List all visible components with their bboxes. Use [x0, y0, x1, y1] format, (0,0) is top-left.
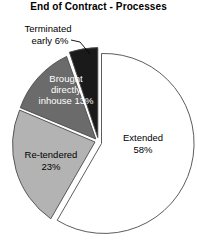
- slice-value-extended: 58%: [133, 144, 153, 155]
- slice-label-extended: Extended: [123, 132, 163, 143]
- slice-label-inhouse-line3: inhouse 13%: [39, 95, 94, 106]
- callout-label-terminated-line2: early 6%: [32, 35, 70, 46]
- slice-value-re-tendered: 23%: [41, 161, 61, 172]
- slice-label-re-tendered: Re-tendered: [25, 149, 78, 160]
- pie-chart-svg: Extended 58% Re-tendered 23% Brought dir…: [0, 0, 197, 246]
- pie-chart-figure: End of Contract - Processes Extended 58%…: [0, 0, 197, 246]
- slice-label-inhouse-line1: Brought: [49, 73, 83, 84]
- callout-label-terminated-line1: Terminated: [25, 23, 72, 34]
- slice-label-inhouse-line2: directly: [51, 84, 81, 95]
